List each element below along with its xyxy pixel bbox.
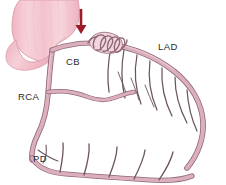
coronary-artery-figure: CB LAD RCA PD [0, 0, 226, 185]
label-rca: RCA [18, 91, 40, 102]
label-pd: PD [33, 153, 47, 164]
coronary-diagram-svg: CB LAD RCA PD [0, 0, 226, 185]
label-cb: CB [66, 56, 80, 67]
label-lad: LAD [158, 41, 178, 52]
